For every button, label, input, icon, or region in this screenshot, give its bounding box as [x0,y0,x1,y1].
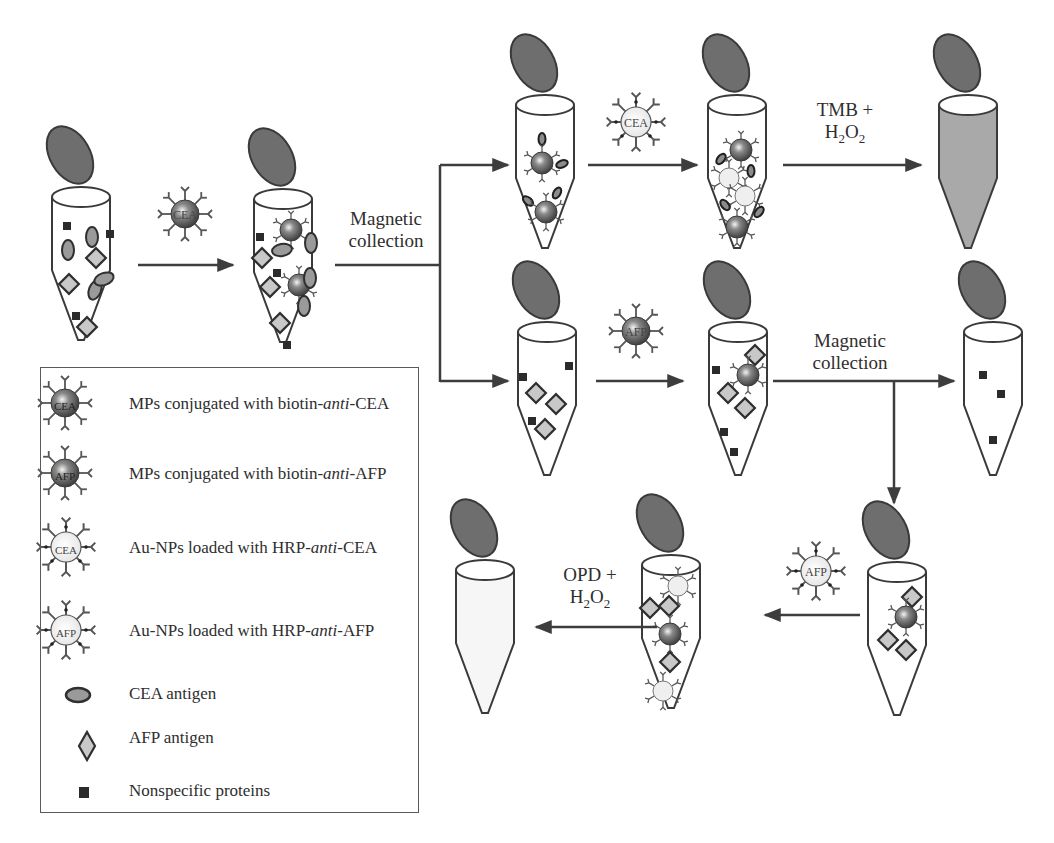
tube-mp-afp-bound [694,253,767,475]
legend-box [40,367,419,813]
legend-item-mp-afp: MPs conjugated with biotin-anti-AFP [129,464,386,484]
tube-mp-cea-bound [239,120,317,349]
branch-connector [335,165,508,382]
tube-cea-sandwich [693,26,766,248]
magnetic-collection-label-1: Magnetic collection [336,208,436,252]
tube-supernatant-waste [949,253,1022,475]
opd-line2: H2O2 [550,586,630,608]
tube-opd-result [441,491,514,713]
tube-sample-mixture [37,118,115,340]
legend-item-cea-antigen: CEA antigen [129,684,216,704]
mp-afp-reagent-label: AFP [617,321,655,343]
au-cea-reagent-label: CEA [617,112,655,134]
tube-cea-captured [501,26,574,248]
opd-h2o2-label: OPD + H2O2 [550,564,630,608]
tmb-line1: TMB + [805,99,885,121]
tmb-h2o2-label: TMB + H2O2 [805,99,885,143]
opd-line1: OPD + [550,564,630,586]
legend-item-au-afp: Au-NPs loaded with HRP-anti-AFP [129,621,374,641]
legend-item-afp-antigen: AFP antigen [129,728,214,748]
tube-tmb-colored [924,26,997,248]
legend-item-mp-cea: MPs conjugated with biotin-anti-CEA [129,394,389,414]
tube-mp-afp-collected [853,493,926,715]
magnetic-collection-2-line2: collection [800,352,900,374]
magnetic-collection-2-line1: Magnetic [800,330,900,352]
tmb-line2: H2O2 [805,121,885,143]
magnetic-collection-2-connector [773,381,954,503]
magnetic-collection-label-2: Magnetic collection [800,330,900,374]
magnetic-collection-1-line1: Magnetic [336,208,436,230]
mp-cea-reagent-label: CEA [166,204,204,226]
magnetic-collection-1-line2: collection [336,230,436,252]
legend-item-nonspecific-proteins: Nonspecific proteins [129,781,270,801]
tube-afp-sandwich [627,486,700,710]
au-afp-reagent-label: AFP [797,561,835,583]
tube-afp-remaining [503,253,576,475]
legend-item-au-cea: Au-NPs loaded with HRP-anti-CEA [129,538,377,558]
diagram-stage: CEA CEA AFP AFP CEA AFP CEA AFP Magnetic… [0,0,1054,843]
